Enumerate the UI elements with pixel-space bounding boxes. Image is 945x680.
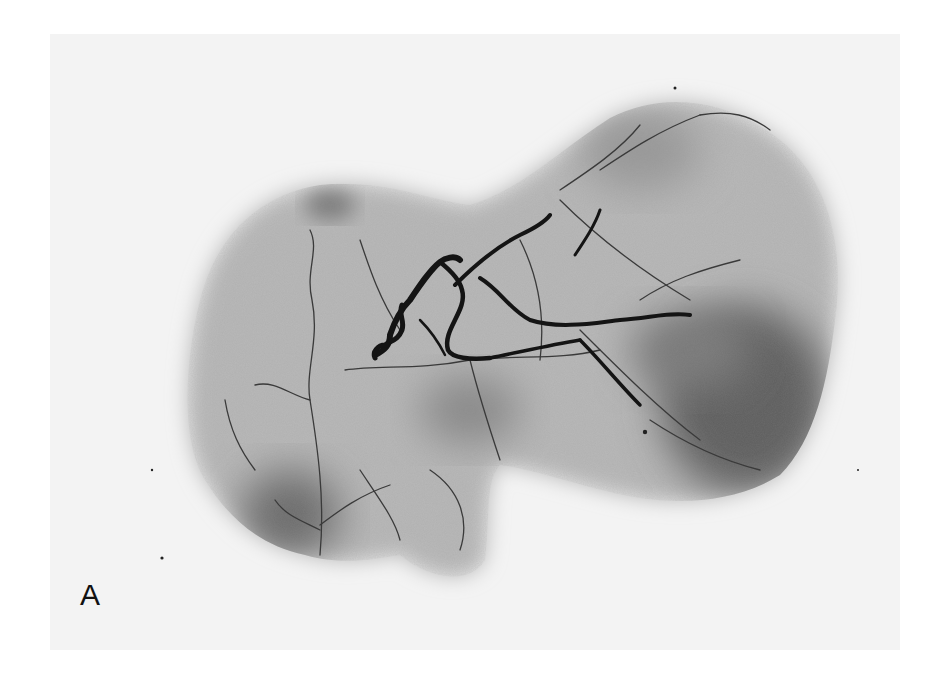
panel-label: A [80,580,100,610]
angiogram-image [0,0,945,680]
organ-silhouette [180,90,860,590]
